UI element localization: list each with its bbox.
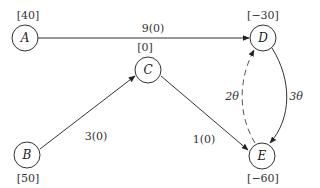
node-supply: [0] (137, 41, 153, 54)
node-e: E [−60] (247, 143, 279, 185)
edge-b-c: 3(0) (40, 76, 135, 149)
edge-label-d-e: 3θ (289, 90, 303, 103)
edge-label-c-e: 1(0) (193, 133, 216, 146)
node-label: E (257, 149, 267, 163)
edge-curve (270, 48, 287, 143)
edge-d-e: 3θ (270, 48, 303, 143)
node-a: A [40] (12, 9, 39, 51)
node-supply: [40] (17, 9, 40, 22)
node-label: A (20, 31, 30, 45)
edge-label-a-d: 9(0) (142, 22, 165, 35)
network-diagram: 9(0) 3(0) 1(0) 3θ 2θ A [40] B [50] C [0]… (0, 0, 320, 188)
node-d: D [−30] (247, 9, 279, 51)
node-b: B [50] (14, 142, 40, 185)
edge-a-d: 9(0) (38, 22, 249, 38)
edge-curve-dashed (242, 50, 255, 143)
node-c: C [0] (135, 41, 161, 83)
edge-c-e: 1(0) (161, 76, 248, 150)
node-supply: [50] (17, 172, 40, 185)
edge-label-b-c: 3(0) (85, 130, 108, 143)
edge-label-e-d: 2θ (224, 90, 239, 103)
node-label: B (22, 148, 32, 162)
node-label: C (143, 63, 152, 77)
edge-e-d: 2θ (224, 50, 255, 143)
node-supply: [−60] (247, 172, 279, 185)
node-label: D (257, 31, 268, 45)
node-supply: [−30] (247, 9, 279, 22)
